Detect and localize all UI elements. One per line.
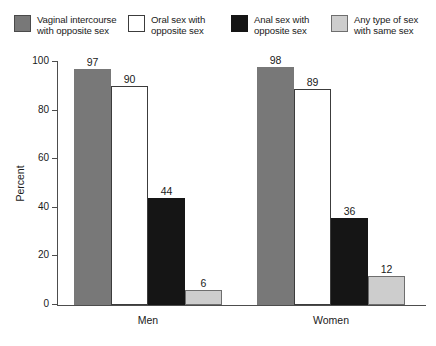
legend-label-oral-sex: Oral sex with opposite sex <box>151 14 205 36</box>
y-axis-tick-label: 0 <box>43 298 49 309</box>
bar-value-label: 44 <box>161 185 173 197</box>
legend-swatch-vaginal-intercourse <box>14 15 31 32</box>
bar-value-label: 90 <box>124 73 136 85</box>
y-axis-title-wrap: Percent <box>8 62 22 305</box>
plot-area: 020406080100 979044698893612 MenWomen <box>57 62 426 306</box>
bar-value-label: 36 <box>344 205 356 217</box>
bar-value-label: 98 <box>270 54 282 66</box>
x-axis-group-label: Men <box>74 314 222 326</box>
y-axis-tick-label: 60 <box>38 152 49 163</box>
bar: 90 <box>111 86 148 305</box>
legend-label-vaginal-intercourse: Vaginal intercourse with opposite sex <box>37 14 117 36</box>
bar: 97 <box>74 69 111 305</box>
legend-item-same-sex: Any type of sex with same sex <box>331 14 418 36</box>
bar: 36 <box>331 218 368 305</box>
bar-value-label: 12 <box>381 263 393 275</box>
y-axis-tick-label: 80 <box>38 104 49 115</box>
y-axis-tick: 60 <box>52 158 58 159</box>
bar: 98 <box>257 67 294 305</box>
y-axis-tick: 20 <box>52 255 58 256</box>
bar-value-label: 97 <box>87 56 99 68</box>
legend-swatch-oral-sex <box>128 15 145 32</box>
bar: 6 <box>185 290 222 305</box>
y-axis-tick-label: 100 <box>32 55 49 66</box>
legend-item-anal-sex: Anal sex with opposite sex <box>231 14 309 36</box>
bar: 44 <box>148 198 185 305</box>
y-axis-title: Percent <box>14 62 28 305</box>
y-axis-tick: 0 <box>52 304 58 305</box>
x-axis-group-label: Women <box>257 314 405 326</box>
bar-value-label: 6 <box>201 277 207 289</box>
legend-swatch-anal-sex <box>231 15 248 32</box>
legend-label-anal-sex: Anal sex with opposite sex <box>254 14 309 36</box>
bar-chart: Vaginal intercourse with opposite sex Or… <box>0 0 436 346</box>
legend-swatch-same-sex <box>331 15 348 32</box>
legend-item-oral-sex: Oral sex with opposite sex <box>128 14 205 36</box>
legend-item-vaginal-intercourse: Vaginal intercourse with opposite sex <box>14 14 117 36</box>
legend-label-same-sex: Any type of sex with same sex <box>354 14 418 36</box>
y-axis-tick: 40 <box>52 207 58 208</box>
bar-value-label: 89 <box>307 76 319 88</box>
chart-legend: Vaginal intercourse with opposite sex Or… <box>0 0 436 48</box>
bar: 12 <box>368 276 405 305</box>
y-axis-tick-label: 20 <box>38 249 49 260</box>
y-axis-tick: 100 <box>52 61 58 62</box>
y-axis-tick-label: 40 <box>38 201 49 212</box>
y-axis-tick: 80 <box>52 110 58 111</box>
bar: 89 <box>294 89 331 305</box>
